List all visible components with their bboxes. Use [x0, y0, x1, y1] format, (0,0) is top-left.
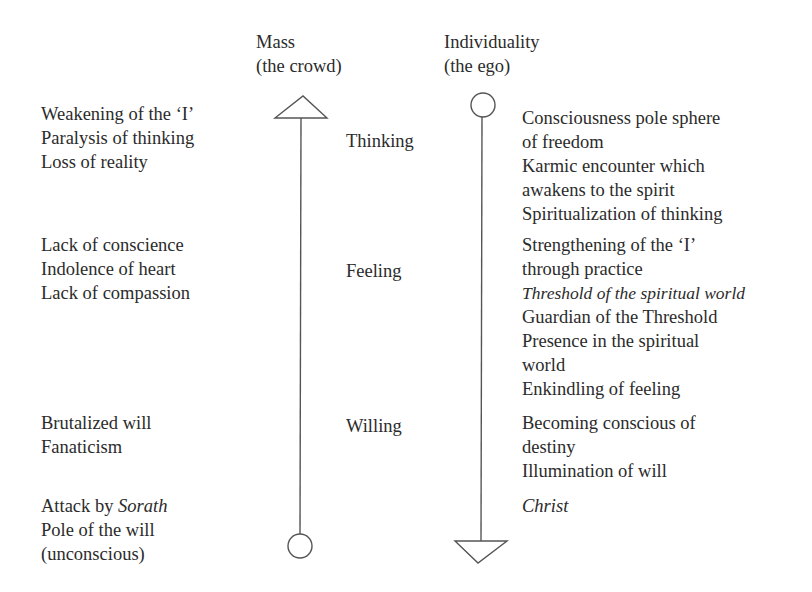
ego-bottom-triangle-icon: [455, 541, 507, 563]
list-item: Fanaticism: [41, 435, 151, 459]
individuality-title: Individuality: [444, 30, 540, 54]
list-item: (unconscious): [41, 542, 167, 566]
list-item: Illumination of will: [522, 459, 696, 483]
list-item: Lack of compassion: [41, 281, 190, 305]
left-pole-list: Attack by Sorath Pole of the will (uncon…: [41, 494, 167, 566]
center-label-willing: Willing: [346, 414, 402, 438]
list-item: Strengthening of the ‘I’: [522, 233, 745, 257]
mass-title: Mass: [256, 30, 342, 54]
left-willing-list: Brutalized will Fanaticism: [41, 411, 151, 459]
individuality-header: Individuality (the ego): [444, 30, 540, 78]
ego-axis-line: [481, 117, 482, 541]
right-feeling-list: Strengthening of the ‘I’ through practic…: [522, 233, 745, 401]
list-item: Loss of reality: [41, 150, 194, 174]
list-item: destiny: [522, 435, 696, 459]
list-item: Becoming conscious of: [522, 411, 696, 435]
right-pole-christ: Christ: [522, 494, 568, 518]
list-item: world: [522, 353, 745, 377]
list-item: of freedom: [522, 130, 722, 154]
list-item: Presence in the spiritual: [522, 329, 745, 353]
left-thinking-list: Weakening of the ‘I’ Paralysis of thinki…: [41, 102, 194, 174]
mass-top-triangle-icon: [275, 96, 327, 118]
list-item: Consciousness pole sphere: [522, 106, 722, 130]
list-item: Attack by Sorath: [41, 494, 167, 518]
center-label-thinking: Thinking: [346, 129, 414, 153]
list-item-threshold: Threshold of the spiritual world: [522, 281, 745, 305]
ego-top-circle-icon: [471, 93, 495, 117]
list-item: Pole of the will: [41, 518, 167, 542]
list-item: Karmic encounter which: [522, 154, 722, 178]
mass-bottom-circle-icon: [288, 534, 312, 558]
center-label-feeling: Feeling: [346, 259, 402, 283]
mass-axis-line: [300, 118, 301, 534]
individuality-subtitle: (the ego): [444, 54, 540, 78]
list-item: Brutalized will: [41, 411, 151, 435]
mass-header: Mass (the crowd): [256, 30, 342, 78]
list-item: Spiritualization of thinking: [522, 202, 722, 226]
left-feeling-list: Lack of conscience Indolence of heart La…: [41, 233, 190, 305]
right-willing-list: Becoming conscious of destiny Illuminati…: [522, 411, 696, 483]
list-item: Enkindling of feeling: [522, 377, 745, 401]
list-item: through practice: [522, 257, 745, 281]
right-thinking-list: Consciousness pole sphere of freedom Kar…: [522, 106, 722, 226]
list-item: awakens to the spirit: [522, 178, 722, 202]
list-item: Lack of conscience: [41, 233, 190, 257]
list-item: Guardian of the Threshold: [522, 305, 745, 329]
sorath-italic: Sorath: [118, 496, 167, 516]
list-item: Weakening of the ‘I’: [41, 102, 194, 126]
mass-subtitle: (the crowd): [256, 54, 342, 78]
list-item: Indolence of heart: [41, 257, 190, 281]
list-item: Paralysis of thinking: [41, 126, 194, 150]
